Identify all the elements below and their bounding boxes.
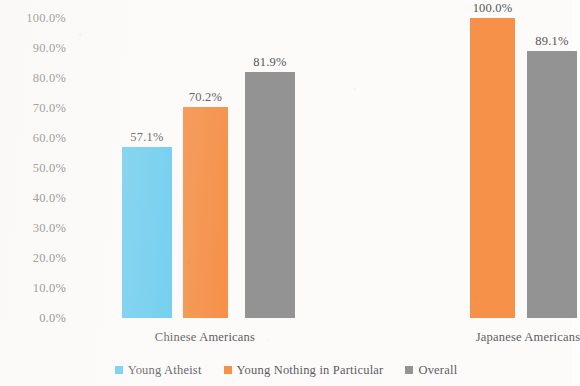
legend-swatch-icon: [224, 366, 232, 374]
y-axis-tick-100: 100.0%: [26, 12, 66, 24]
y-axis-tick-80: 80.0%: [33, 72, 66, 84]
bar-value-label: 89.1%: [535, 35, 568, 48]
legend-item-overall[interactable]: Overall: [405, 363, 457, 377]
x-axis-category-chinese-americans: Chinese Americans: [155, 330, 255, 344]
y-axis-tick-10: 10.0%: [33, 282, 66, 294]
bar-fill: [183, 107, 228, 318]
y-axis-tick-0: 0.0%: [39, 312, 66, 324]
legend-item-young-nothing-in-particular[interactable]: Young Nothing in Particular: [224, 363, 384, 377]
legend-label: Overall: [418, 363, 457, 377]
bar-chinese-young-atheist[interactable]: 57.1%: [122, 147, 172, 318]
bar-fill: [470, 18, 515, 318]
legend-label: Young Nothing in Particular: [237, 363, 384, 377]
bar-fill: [527, 51, 577, 318]
bar-value-label: 70.2%: [189, 91, 222, 104]
bar-fill: [245, 72, 295, 318]
legend-label: Young Atheist: [128, 363, 202, 377]
bar-chinese-young-nothing-in-particular[interactable]: 70.2%: [183, 107, 228, 318]
legend-swatch-icon: [115, 366, 123, 374]
chart-legend: Young Atheist Young Nothing in Particula…: [0, 363, 572, 377]
y-axis-tick-90: 90.0%: [33, 42, 66, 54]
y-axis-tick-70: 70.0%: [33, 102, 66, 114]
bar-chinese-overall[interactable]: 81.9%: [245, 72, 295, 318]
legend-item-young-atheist[interactable]: Young Atheist: [115, 363, 202, 377]
x-axis-category-japanese-americans: Japanese Americans: [476, 330, 580, 344]
bar-japanese-young-nothing-in-particular[interactable]: 100.0%: [470, 18, 515, 318]
y-axis-tick-60: 60.0%: [33, 132, 66, 144]
bar-value-label: 81.9%: [253, 56, 286, 69]
y-axis-tick-50: 50.0%: [33, 162, 66, 174]
legend-swatch-icon: [405, 366, 413, 374]
plot-area: 57.1% 70.2% 81.9% 100.0% 89.1% Chinese A…: [78, 0, 572, 386]
y-axis-tick-40: 40.0%: [33, 192, 66, 204]
bar-value-label: 57.1%: [130, 131, 163, 144]
bar-japanese-overall[interactable]: 89.1%: [527, 51, 577, 318]
y-axis-tick-20: 20.0%: [33, 252, 66, 264]
bar-fill: [122, 147, 172, 318]
bar-value-label: 100.0%: [473, 2, 513, 15]
y-axis: 100.0% 90.0% 80.0% 70.0% 60.0% 50.0% 40.…: [0, 0, 78, 386]
y-axis-tick-30: 30.0%: [33, 222, 66, 234]
